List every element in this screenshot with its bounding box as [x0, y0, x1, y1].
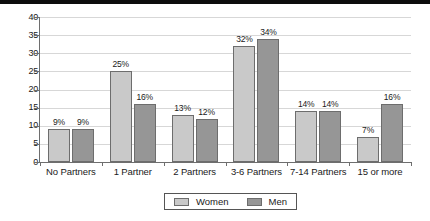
- x-axis-category-label: 2 Partners: [164, 166, 226, 178]
- x-axis-category-label: 3-6 Partners: [226, 166, 288, 178]
- bar-value-label: 34%: [253, 28, 283, 37]
- y-axis-tickmark: [34, 162, 39, 163]
- x-axis-category-label: 15 or more: [349, 166, 411, 178]
- y-axis-tickmark: [34, 35, 39, 36]
- bar-chart: 0510152025303540 9%9%25%16%13%12%32%34%1…: [0, 4, 430, 190]
- bar-group: 7%16%: [349, 17, 411, 162]
- bar-value-label: 16%: [377, 93, 407, 102]
- bar-group: 9%9%: [40, 17, 102, 162]
- legend-item-women[interactable]: Women: [174, 197, 229, 207]
- bar-value-label: 7%: [353, 126, 383, 135]
- bar-value-label: 9%: [68, 118, 98, 127]
- y-axis-tickmark: [34, 17, 39, 18]
- x-axis-category-label: No Partners: [40, 166, 102, 178]
- bar-women[interactable]: [110, 71, 132, 162]
- bar-men[interactable]: [134, 104, 156, 162]
- bar-group: 25%16%: [102, 17, 164, 162]
- y-axis-tickmark: [34, 144, 39, 145]
- y-axis-tickmark: [34, 90, 39, 91]
- chart-legend: WomenMen: [164, 193, 297, 210]
- bar-men[interactable]: [257, 39, 279, 162]
- bar-value-label: 25%: [106, 60, 136, 69]
- y-axis-tickmark: [34, 108, 39, 109]
- plot-area: 9%9%25%16%13%12%32%34%14%14%7%16%: [40, 17, 411, 162]
- legend-swatch-icon: [247, 198, 262, 206]
- bar-women[interactable]: [233, 46, 255, 162]
- bar-men[interactable]: [381, 104, 403, 162]
- bar-men[interactable]: [319, 111, 341, 162]
- bar-value-label: 16%: [130, 93, 160, 102]
- legend-label: Women: [196, 197, 229, 207]
- bar-women[interactable]: [48, 129, 70, 162]
- legend-item-men[interactable]: Men: [247, 197, 287, 207]
- bar-men[interactable]: [196, 119, 218, 163]
- bar-group: 32%34%: [226, 17, 288, 162]
- bar-value-label: 12%: [192, 108, 222, 117]
- bar-group: 14%14%: [287, 17, 349, 162]
- bar-men[interactable]: [72, 129, 94, 162]
- bar-value-label: 14%: [315, 100, 345, 109]
- bar-women[interactable]: [357, 137, 379, 162]
- legend-label: Men: [269, 197, 287, 207]
- bar-women[interactable]: [295, 111, 317, 162]
- legend-swatch-icon: [174, 198, 189, 206]
- y-axis-tickmark: [34, 126, 39, 127]
- x-axis-category-label: 7-14 Partners: [287, 166, 349, 178]
- x-axis-tickmark: [411, 162, 412, 166]
- x-axis-labels: No Partners1 Partner2 Partners3-6 Partne…: [40, 166, 411, 182]
- bar-women[interactable]: [172, 115, 194, 162]
- y-axis-tickmark: [34, 53, 39, 54]
- x-axis-category-label: 1 Partner: [102, 166, 164, 178]
- y-axis-tickmark: [34, 71, 39, 72]
- bar-group: 13%12%: [164, 17, 226, 162]
